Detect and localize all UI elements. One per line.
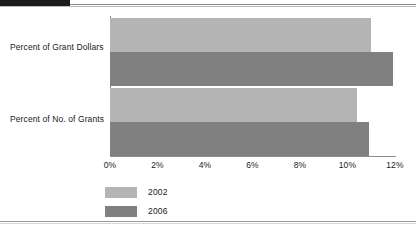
x-tick-label-0: 0% xyxy=(104,160,117,170)
category-label-grant-dollars: Percent of Grant Dollars xyxy=(10,42,106,52)
x-axis-line xyxy=(110,156,396,157)
chart-figure: Percent of Grant Dollars Percent of No. … xyxy=(0,0,416,229)
footer-divider xyxy=(0,221,416,222)
x-tick-label-2: 4% xyxy=(199,160,212,170)
x-tick-label-5: 10% xyxy=(339,160,357,170)
header-divider xyxy=(70,4,416,5)
bar-grant-dollars-2006 xyxy=(110,52,393,86)
bar-no-of-grants-2002 xyxy=(110,88,357,122)
bar-no-of-grants-2006 xyxy=(110,122,369,156)
legend-label-2002: 2002 xyxy=(148,187,168,197)
x-tick-label-1: 2% xyxy=(151,160,164,170)
legend-item-2006: 2006 xyxy=(105,203,168,219)
x-tick-label-4: 8% xyxy=(294,160,307,170)
legend-swatch-2002 xyxy=(105,187,137,198)
legend-label-2006: 2006 xyxy=(148,206,168,216)
header-divider-secondary xyxy=(0,6,416,7)
chart-legend: 2002 2006 xyxy=(105,184,168,222)
x-tick-label-6: 12% xyxy=(386,160,404,170)
bar-grant-dollars-2002 xyxy=(110,18,371,52)
legend-item-2002: 2002 xyxy=(105,184,168,200)
x-tick-label-3: 6% xyxy=(246,160,259,170)
category-label-no-of-grants: Percent of No. of Grants xyxy=(10,114,106,124)
footer-divider-secondary xyxy=(0,223,416,224)
legend-swatch-2006 xyxy=(105,206,137,217)
